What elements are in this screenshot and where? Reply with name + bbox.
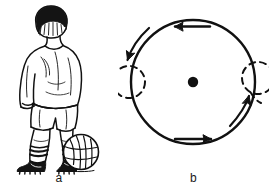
player-shorts (31, 104, 78, 132)
player-illustration (0, 0, 118, 175)
panel-a-label: a (0, 172, 118, 184)
rotation-diagram (118, 0, 269, 170)
center-dot (188, 77, 198, 87)
player-head (36, 6, 67, 46)
panel-b-label: b (118, 172, 269, 184)
panel-a: a (0, 0, 118, 192)
player-jersey (20, 46, 82, 109)
arrow-top (175, 22, 210, 31)
figure-root: a (0, 0, 269, 192)
panel-b: b (118, 0, 269, 192)
